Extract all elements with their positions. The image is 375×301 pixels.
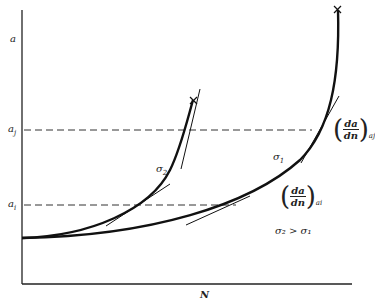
sigma2-label: σ2: [156, 164, 167, 177]
aj-tick-label: aj: [8, 124, 16, 137]
tangent-sigma1-ai: [186, 196, 250, 225]
sigma2-curve: [22, 100, 193, 238]
ai-tick-label: ai: [8, 199, 16, 212]
slope-aj-annotation: ( dadn ) aj: [333, 116, 375, 142]
x-axis-label: N: [200, 290, 209, 300]
sigma1-label: σ1: [273, 152, 284, 165]
y-axis-label: a: [10, 34, 16, 44]
stress-relation-label: σ₂ > σ₁: [275, 226, 311, 236]
sigma2-failure-marker-icon: [190, 97, 197, 104]
slope-ai-annotation: ( dadn ) ai: [280, 183, 322, 209]
